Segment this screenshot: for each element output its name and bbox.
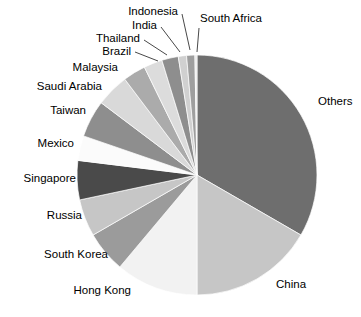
pie-label-malaysia: Malaysia — [0, 61, 118, 74]
pie-label-others: Others — [318, 95, 353, 108]
pie-label-taiwan: Taiwan — [0, 104, 86, 117]
pie-label-hong-kong: Hong Kong — [0, 284, 131, 297]
pie-label-india: India — [0, 19, 157, 32]
pie-label-saudi-arabia: Saudi Arabia — [0, 80, 102, 93]
pie-label-south-africa: South Africa — [200, 12, 262, 25]
leader-line-brazil — [135, 52, 158, 61]
pie-label-south-korea: South Korea — [0, 248, 108, 261]
leader-line-indonesia — [182, 14, 190, 50]
leader-line-thailand — [144, 40, 167, 55]
pie-label-mexico: Mexico — [0, 137, 74, 150]
pie-label-brazil: Brazil — [0, 45, 131, 58]
pie-label-russia: Russia — [0, 209, 82, 222]
leader-line-south-africa — [197, 28, 199, 52]
pie-label-indonesia: Indonesia — [0, 5, 178, 18]
pie-label-singapore: Singapore — [0, 172, 76, 185]
pie-chart: OthersChinaHong KongSouth KoreaRussiaSin… — [0, 0, 361, 317]
pie-slices-group — [77, 55, 317, 295]
leader-line-india — [161, 27, 180, 52]
pie-label-china: China — [276, 278, 306, 291]
pie-label-thailand: Thailand — [0, 32, 140, 45]
